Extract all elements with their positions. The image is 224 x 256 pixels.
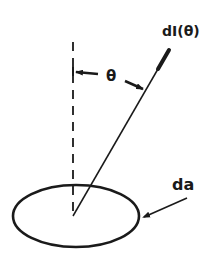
theta-left-arrow-icon	[76, 72, 98, 74]
intensity-label: dI(θ)	[162, 23, 200, 39]
area-label: da	[172, 175, 194, 194]
theta-label: θ	[106, 67, 116, 85]
theta-right-arrow-icon	[125, 81, 143, 89]
radiation-geometry-diagram: θ dI(θ) da	[0, 0, 224, 256]
ray-arrow-icon	[158, 50, 169, 69]
area-element-ellipse	[13, 185, 139, 247]
area-pointer-arrow-icon	[144, 198, 187, 217]
